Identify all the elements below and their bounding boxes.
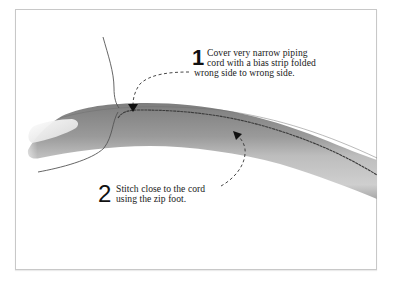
thread-top xyxy=(103,37,119,108)
callout-1-line-3: wrong side to wrong side. xyxy=(194,68,295,78)
callout-2-line-2: using the zip foot. xyxy=(116,194,186,204)
callout-1-number: 1 xyxy=(192,47,204,69)
callout-2-number: 2 xyxy=(98,182,111,206)
callout-1-arrow xyxy=(133,72,189,105)
piping-illustration xyxy=(0,0,395,281)
